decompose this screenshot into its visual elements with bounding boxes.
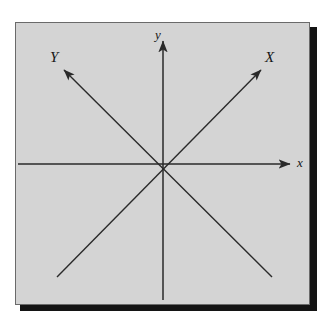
- axis-label-y: y: [155, 28, 161, 41]
- axis-label-Y-rotated: Y: [50, 50, 58, 65]
- figure-root: X Y x y: [0, 0, 325, 331]
- axis-label-X-rotated: X: [265, 50, 274, 65]
- axis-label-x: x: [297, 156, 303, 169]
